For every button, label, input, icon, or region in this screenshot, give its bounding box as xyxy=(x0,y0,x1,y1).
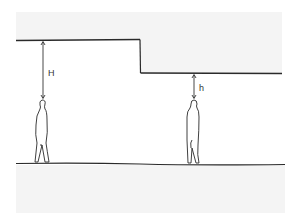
tall-clearance-arrow xyxy=(41,42,45,99)
floor-line xyxy=(16,163,285,165)
ceiling-height-diagram: H h xyxy=(0,0,295,224)
ceiling-step-line xyxy=(140,40,141,74)
low-clearance-label: h xyxy=(199,83,204,93)
person-left-figure xyxy=(35,100,49,162)
low-clearance-arrow xyxy=(192,75,196,99)
person-right-figure xyxy=(187,100,199,163)
ceiling-mass-shade xyxy=(16,12,282,73)
ground-shade xyxy=(16,165,285,213)
low-ceiling-line xyxy=(141,73,283,74)
tall-clearance-label: H xyxy=(48,68,55,78)
